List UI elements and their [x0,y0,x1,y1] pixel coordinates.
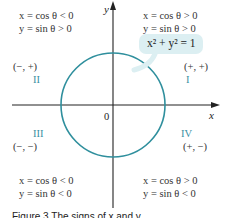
y-axis-arrow-icon [110,1,116,10]
q1-signs: (+, +) [184,61,208,72]
q2-cos-line: x = cos θ < 0 [19,10,74,21]
origin-label: 0 [104,111,109,123]
q2-numeral: II [33,74,40,85]
figure-caption: Figure 3 The signs of x and y [12,211,141,218]
q3-sin-line: y = sin θ < 0 [19,188,72,199]
q1-sin-line: y = sin θ > 0 [143,23,196,34]
x-axis-label: x [209,109,214,121]
q3-cos-line: x = cos θ < 0 [19,175,74,186]
q1-numeral: I [186,74,190,85]
circle-equation: x² + y² = 1 [147,37,196,49]
q4-numeral: IV [181,128,192,139]
q3-numeral: III [33,128,44,139]
q4-cos-line: x = cos θ > 0 [143,175,198,186]
q3-signs: (−, −) [13,141,37,152]
q1-cos-line: x = cos θ > 0 [143,10,198,21]
q4-sin-line: y = sin θ < 0 [143,188,196,199]
q4-signs: (+, −) [183,141,207,152]
x-axis-arrow-icon [211,102,220,108]
y-axis-label: y [104,3,109,15]
q2-sin-line: y = sin θ > 0 [19,23,72,34]
q2-signs: (−, +) [13,61,37,72]
callout-pointer [134,54,155,70]
